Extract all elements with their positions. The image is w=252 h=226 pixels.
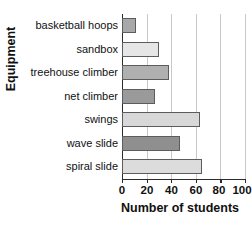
y-axis-label: Equipment — [4, 4, 18, 114]
x-tick-80 — [220, 179, 221, 183]
x-tick-100 — [245, 179, 246, 183]
gridline-100 — [245, 14, 246, 179]
bar-basketball-hoops — [122, 18, 136, 33]
gridline-80 — [220, 14, 221, 179]
chart-title — [0, 0, 252, 4]
x-tick-label-80: 80 — [213, 184, 226, 196]
bar-row: basketball hoops — [122, 14, 136, 38]
x-axis-label: Number of students — [108, 201, 252, 215]
bar-row: treehouse climber — [122, 61, 169, 85]
bar-sandbox — [122, 42, 159, 57]
bar-net-climber — [122, 89, 155, 104]
plot-area: basketball hoops sandbox treehouse climb… — [122, 14, 245, 179]
bar-row: wave slide — [122, 132, 180, 156]
x-tick-60 — [196, 179, 197, 183]
bar-swings — [122, 112, 200, 127]
bar-row: swings — [122, 108, 200, 132]
x-tick-label-40: 40 — [165, 184, 178, 196]
category-label: basketball hoops — [35, 20, 118, 31]
category-label: swings — [84, 114, 118, 125]
category-label: wave slide — [67, 138, 118, 149]
x-tick-40 — [171, 179, 172, 183]
bar-treehouse-climber — [122, 65, 169, 80]
category-label: spiral slide — [66, 161, 118, 172]
category-label: treehouse climber — [31, 67, 118, 78]
x-tick-label-100: 100 — [232, 184, 251, 196]
bar-row: net climber — [122, 85, 155, 109]
x-tick-0 — [122, 179, 123, 183]
x-tick-label-20: 20 — [141, 184, 154, 196]
bar-row: spiral slide — [122, 155, 202, 179]
x-tick-label-60: 60 — [190, 184, 203, 196]
bar-row: sandbox — [122, 38, 159, 62]
bar-chart: Equipment basketball hoops sandbox treeh… — [0, 0, 252, 226]
bar-spiral-slide — [122, 159, 202, 174]
bar-wave-slide — [122, 136, 180, 151]
category-label: net climber — [64, 91, 118, 102]
category-label: sandbox — [76, 44, 118, 55]
x-tick-label-0: 0 — [119, 184, 125, 196]
x-axis-line — [122, 179, 246, 180]
x-tick-20 — [147, 179, 148, 183]
